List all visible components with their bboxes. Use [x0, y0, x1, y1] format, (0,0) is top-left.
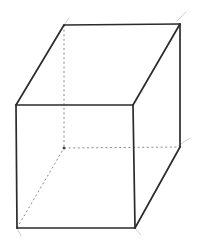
figure-background: [0, 0, 199, 240]
vertex-dot-group: [63, 147, 66, 150]
hidden-corner-dot: [63, 147, 66, 150]
top-face-back-edge: [64, 24, 180, 25]
front-face-left-edge: [16, 105, 17, 228]
cube-wireframe-figure: [0, 0, 199, 240]
